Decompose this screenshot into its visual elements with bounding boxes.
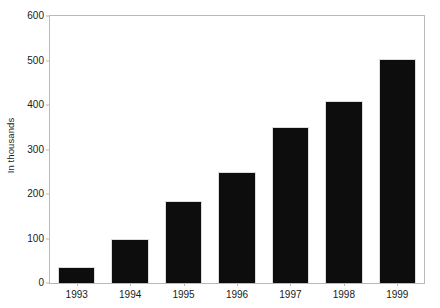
- bar: [379, 59, 416, 283]
- x-axis-tick-label: 1997: [279, 290, 301, 300]
- y-axis-title-label: In thousands: [6, 117, 17, 173]
- x-axis-tick-label: 1994: [119, 290, 141, 300]
- bar-series: [50, 16, 424, 283]
- x-axis-tick-mark: [397, 283, 398, 286]
- plot-area: 0100200300400500600 19931994199519961997…: [49, 15, 425, 284]
- x-axis-tick-mark: [130, 283, 131, 286]
- x-axis-tick-label: 1998: [333, 290, 355, 300]
- x-axis-tick-mark: [344, 283, 345, 286]
- bar: [58, 267, 95, 283]
- x-axis-tick-mark: [184, 283, 185, 286]
- x-axis-tick-label: 1993: [66, 290, 88, 300]
- bar: [272, 127, 309, 283]
- x-axis-tick-label: 1996: [226, 290, 248, 300]
- x-axis-tick-mark: [290, 283, 291, 286]
- x-axis-tick-mark: [237, 283, 238, 286]
- x-axis-tick-label: 1995: [172, 290, 194, 300]
- bar: [218, 172, 255, 283]
- bar: [165, 201, 202, 283]
- bar: [111, 239, 148, 284]
- x-axis-tick-mark: [77, 283, 78, 286]
- bar-chart: In thousands 0100200300400500600 1993199…: [0, 0, 440, 308]
- x-axis-tick-label: 1999: [386, 290, 408, 300]
- y-axis-title: In thousands: [0, 0, 22, 290]
- bar: [325, 101, 362, 283]
